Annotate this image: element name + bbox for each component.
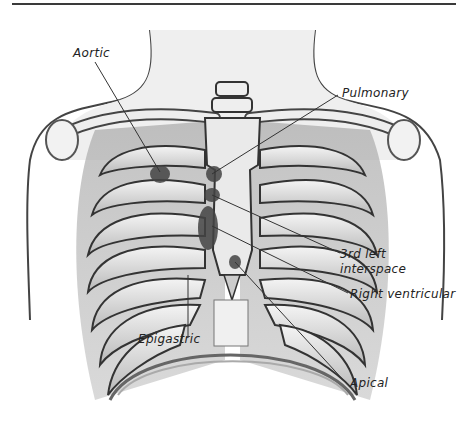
label-third-left-line1: 3rd left xyxy=(340,247,386,261)
label-pulmonary: Pulmonary xyxy=(342,86,409,100)
thorax-illustration xyxy=(0,0,466,429)
label-third-left-line2: interspace xyxy=(340,262,406,276)
label-apical: Apical xyxy=(350,376,388,390)
vertebrae xyxy=(212,82,252,112)
label-aortic: Aortic xyxy=(73,46,110,60)
aortic-area xyxy=(150,165,170,183)
label-right-ventricular: Right ventricular xyxy=(350,287,455,301)
label-epigastric: Epigastric xyxy=(138,332,200,346)
pulmonary-area xyxy=(206,166,222,182)
